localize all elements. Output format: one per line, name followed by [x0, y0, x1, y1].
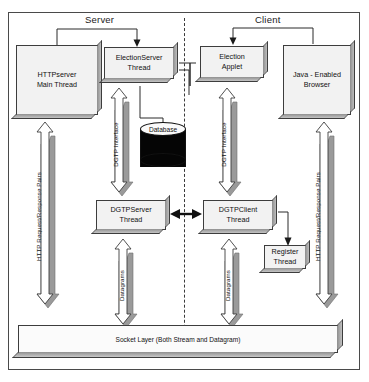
database-top-label: Database [140, 122, 186, 136]
zone-label-server: Server [85, 14, 114, 25]
arrow-http-right [305, 118, 339, 310]
box-election-applet-label: ElectionApplet [217, 52, 247, 71]
arrow-label-http-right: HTTP Request/Response Pairs [314, 157, 321, 277]
server-client-divider [184, 18, 185, 358]
box-register-thread[interactable]: RegisterThread [264, 245, 306, 269]
arrow-http-left [26, 118, 60, 310]
box-electionserver-label: ElectionServerThread [114, 53, 165, 72]
arrow-label-datagrams-client: Datagrams [224, 260, 231, 312]
box-register-thread-label: RegisterThread [270, 247, 301, 266]
box-httpserver-label: HTTPserverMain Thread [35, 70, 79, 89]
zone-label-client: Client [255, 14, 281, 25]
box-dgtpclient-label: DGTPClientThread [217, 205, 259, 224]
diagram-canvas: Server Client HTTPserverMain Thread Elec… [0, 0, 369, 382]
database-bottom [140, 153, 186, 167]
arrow-label-datagrams-server: Datagrams [118, 260, 125, 312]
box-dgtpserver-thread[interactable]: DGTPServerThread [96, 200, 166, 230]
box-election-applet[interactable]: ElectionApplet [200, 46, 264, 78]
box-dgtpclient-thread[interactable]: DGTPClientThread [203, 200, 273, 230]
box-dgtpserver-label: DGTPServerThread [108, 205, 153, 224]
socket-layer-label: Socket Layer (Both Stream and Datagram) [116, 336, 241, 343]
arrow-label-dgtp-client: DGTP Interface [220, 108, 227, 182]
arrow-label-http-left: HTTP Request/Response Pairs [35, 157, 42, 277]
box-httpserver-main-thread[interactable]: HTTPserverMain Thread [16, 45, 98, 115]
database-cylinder[interactable]: Database [140, 122, 186, 174]
box-electionserver-thread[interactable]: ElectionServerThread [104, 47, 174, 79]
arrow-label-dgtp-server: DGTP Interface [112, 108, 119, 182]
box-java-browser-label: Java - EnabledBrowser [291, 70, 343, 89]
socket-layer-slab[interactable]: Socket Layer (Both Stream and Datagram) [18, 325, 338, 353]
box-java-enabled-browser[interactable]: Java - EnabledBrowser [283, 45, 351, 115]
